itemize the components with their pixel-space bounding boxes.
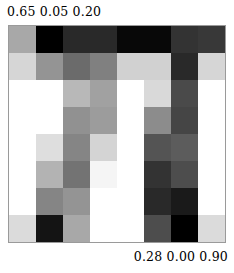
heatmap-cell: [36, 26, 63, 53]
heatmap-cell: [90, 188, 117, 215]
heatmap-cell: [171, 107, 198, 134]
heatmap-cell: [36, 53, 63, 80]
heatmap-cell: [117, 215, 144, 242]
heatmap-cell: [198, 107, 225, 134]
heatmap-cell: [144, 161, 171, 188]
heatmap-cell: [144, 188, 171, 215]
heatmap-cell: [171, 80, 198, 107]
heatmap-grid: [9, 26, 225, 242]
heatmap-cell: [36, 134, 63, 161]
heatmap-cell: [90, 161, 117, 188]
heatmap-cell: [198, 53, 225, 80]
heatmap-cell: [90, 26, 117, 53]
heatmap-cell: [171, 215, 198, 242]
heatmap-cell: [117, 53, 144, 80]
heatmap-cell: [63, 80, 90, 107]
heatmap-cell: [63, 215, 90, 242]
heatmap-cell: [144, 53, 171, 80]
heatmap-cell: [90, 107, 117, 134]
heatmap-cell: [63, 161, 90, 188]
heatmap-cell: [9, 134, 36, 161]
heatmap-cell: [63, 26, 90, 53]
heatmap-cell: [90, 53, 117, 80]
heatmap-cell: [198, 188, 225, 215]
heatmap-cell: [117, 188, 144, 215]
heatmap-cell: [36, 107, 63, 134]
heatmap-cell: [36, 80, 63, 107]
heatmap-cell: [36, 215, 63, 242]
bottom-right-caption: 0.28 0.00 0.90: [134, 251, 228, 264]
heatmap-cell: [144, 215, 171, 242]
heatmap-cell: [9, 215, 36, 242]
heatmap-cell: [117, 134, 144, 161]
heatmap-cell: [198, 26, 225, 53]
heatmap-cell: [171, 188, 198, 215]
heatmap-cell: [9, 53, 36, 80]
top-left-caption: 0.65 0.05 0.20: [7, 6, 101, 19]
heatmap-cell: [171, 53, 198, 80]
heatmap-cell: [198, 134, 225, 161]
heatmap-cell: [63, 134, 90, 161]
heatmap-cell: [144, 26, 171, 53]
heatmap-cell: [198, 80, 225, 107]
heatmap-cell: [9, 26, 36, 53]
heatmap-cell: [117, 161, 144, 188]
heatmap-frame: [8, 25, 226, 243]
heatmap-cell: [36, 188, 63, 215]
heatmap-cell: [117, 80, 144, 107]
heatmap-cell: [144, 107, 171, 134]
heatmap-cell: [9, 188, 36, 215]
heatmap-cell: [198, 161, 225, 188]
heatmap-cell: [9, 107, 36, 134]
heatmap-cell: [9, 161, 36, 188]
heatmap-cell: [90, 134, 117, 161]
heatmap-cell: [198, 215, 225, 242]
heatmap-cell: [63, 107, 90, 134]
heatmap-cell: [63, 53, 90, 80]
heatmap-cell: [171, 26, 198, 53]
heatmap-cell: [171, 134, 198, 161]
heatmap-cell: [9, 80, 36, 107]
heatmap-cell: [90, 80, 117, 107]
heatmap-cell: [90, 215, 117, 242]
heatmap-cell: [63, 188, 90, 215]
heatmap-cell: [117, 107, 144, 134]
heatmap-cell: [36, 161, 63, 188]
heatmap-cell: [171, 161, 198, 188]
heatmap-cell: [117, 26, 144, 53]
heatmap-cell: [144, 80, 171, 107]
heatmap-cell: [144, 134, 171, 161]
